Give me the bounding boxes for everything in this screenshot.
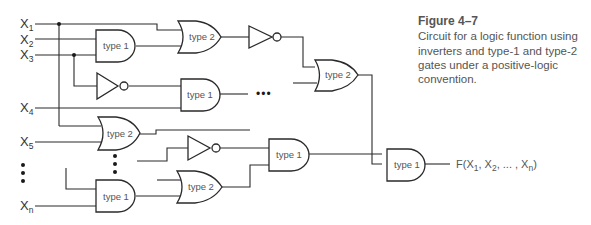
- gate-type2-a: type 2: [178, 21, 221, 53]
- gate-type1-b: type 1: [181, 79, 220, 111]
- gate-type1-d: type 1: [269, 139, 309, 171]
- figure-caption-text: Circuit for a logic function using inver…: [418, 29, 591, 86]
- figure-caption: Figure 4–7 Circuit for a logic function …: [418, 14, 591, 86]
- svg-text:type 1: type 1: [187, 89, 213, 100]
- inverter-top: [249, 26, 281, 48]
- gate-type1-final: type 1: [387, 149, 425, 181]
- vertical-ellipsis-inputs: [21, 163, 25, 183]
- gate-type2-c: type 2: [98, 117, 140, 150]
- svg-text:type 2: type 2: [188, 181, 214, 192]
- vertical-ellipsis-gates: [113, 154, 117, 174]
- svg-text:type 1: type 1: [103, 40, 129, 51]
- figure-title: Figure 4–7: [418, 14, 591, 28]
- svg-text:type 1: type 1: [103, 191, 129, 202]
- output-function-label: F(X1, X2, ... , Xn): [456, 158, 537, 173]
- gate-type1-a: type 1: [96, 30, 135, 62]
- gate-type2-d: type 2: [177, 171, 222, 203]
- input-label-x4: X4: [20, 100, 34, 117]
- inverter-middle: [97, 73, 128, 99]
- svg-text:type 2: type 2: [189, 31, 215, 42]
- input-label-x3: X3: [20, 47, 34, 64]
- svg-text:type 1: type 1: [276, 149, 302, 160]
- horizontal-ellipsis: •••: [256, 87, 272, 101]
- svg-text:type 1: type 1: [394, 159, 420, 170]
- svg-text:type 2: type 2: [325, 69, 351, 80]
- inverter-bottom: [188, 136, 220, 160]
- gate-type2-b: type 2: [315, 60, 358, 91]
- gate-type1-c: type 1: [96, 180, 135, 212]
- svg-text:type 2: type 2: [107, 128, 133, 139]
- input-label-x5: X5: [20, 134, 34, 151]
- input-label-x1: X1: [20, 16, 34, 33]
- input-label-xn: Xn: [20, 198, 34, 215]
